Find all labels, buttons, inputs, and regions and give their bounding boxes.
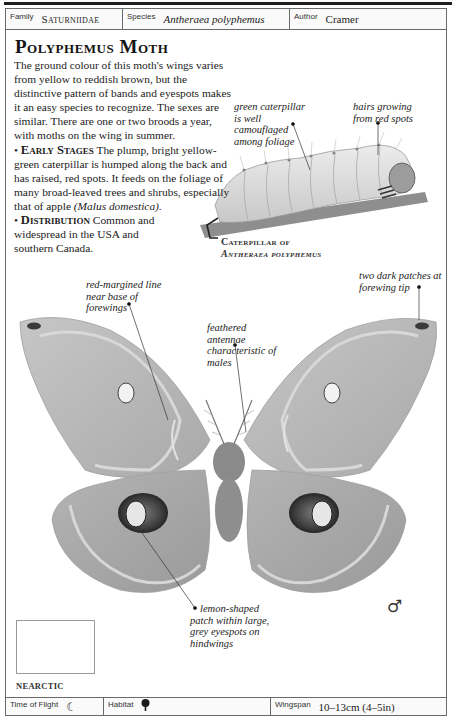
- intro-paragraph: The ground colour of this moth's wings v…: [14, 58, 234, 143]
- wingspan-label: Wingspan: [275, 700, 311, 709]
- description: The ground colour of this moth's wings v…: [14, 58, 234, 255]
- callout-lemon-patch: lemon-shaped patch within large, grey ey…: [190, 603, 280, 649]
- species-title: Polyphemus Moth: [15, 36, 168, 58]
- early-stages-latin: (Malus domestica).: [74, 200, 162, 212]
- wingspan-cell: Wingspan 10–13cm (4–5in): [271, 698, 446, 715]
- callout-caterpillar-camouflage: green caterpillar is well camouflaged am…: [234, 101, 314, 147]
- early-stages-paragraph: • Early Stages The plump, bright yellow-…: [14, 143, 234, 213]
- distribution-map-frame: [16, 620, 95, 674]
- tree-icon: [141, 699, 150, 714]
- caterpillar-caption: Caterpillar of Antheraea polyphemus: [221, 236, 381, 260]
- wingspan-value: 10–13cm (4–5in): [319, 701, 395, 713]
- male-symbol: ♂: [387, 596, 402, 616]
- footer-bar: Time of Flight ☾ Habitat Wingspan 10–13c…: [5, 697, 447, 716]
- callout-dark-patches: two dark patches at forewing tip: [359, 270, 444, 293]
- bullet: •: [14, 144, 18, 156]
- time-of-flight-cell: Time of Flight ☾: [6, 698, 104, 715]
- distribution-heading: Distribution: [21, 213, 90, 227]
- habitat-cell: Habitat: [104, 698, 271, 715]
- region-label: NEARCTIC: [16, 681, 64, 691]
- caption-line-2: Antheraea polyphemus: [221, 248, 381, 260]
- time-of-flight-label: Time of Flight: [10, 700, 58, 709]
- early-stages-heading: Early Stages: [21, 143, 94, 157]
- bullet: •: [14, 214, 18, 226]
- caption-line-1: Caterpillar of: [221, 236, 381, 248]
- distribution-paragraph: • Distribution Common and widespread in …: [14, 213, 164, 255]
- callout-caterpillar-hairs: hairs growing from red spots: [353, 101, 413, 124]
- habitat-label: Habitat: [108, 700, 133, 709]
- callout-red-margined-line: red-margined line near base of forewings: [86, 279, 166, 314]
- callout-feathered-antennae: feathered antennae characteristic of mal…: [207, 322, 287, 368]
- moon-icon: ☾: [66, 700, 77, 714]
- caterpillar-illustration: [200, 132, 428, 238]
